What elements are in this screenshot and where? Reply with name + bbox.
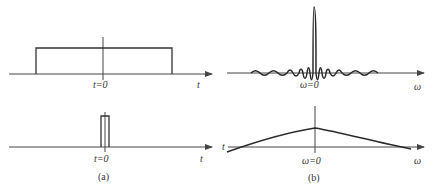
fourier-duality-diagram: t=0 t ω=0 ω t=0 t (a) t ω=0 ω (b) bbox=[0, 0, 434, 192]
caption-b: (b) bbox=[308, 172, 320, 184]
axis-label-t: t bbox=[200, 153, 203, 164]
axis-label-omega: ω bbox=[414, 81, 421, 92]
wide-spectrum bbox=[227, 128, 411, 152]
axis-label-t: t bbox=[197, 79, 200, 90]
origin-label: ω=0 bbox=[302, 155, 321, 166]
origin-label: ω=0 bbox=[300, 79, 319, 90]
left-edge-label: t bbox=[222, 141, 225, 152]
axis-label-omega: ω bbox=[414, 155, 421, 166]
wide-rect-pulse bbox=[36, 48, 172, 74]
caption-a: (a) bbox=[98, 171, 109, 183]
panel-a-top: t=0 t bbox=[9, 37, 212, 90]
origin-label: t=0 bbox=[93, 79, 108, 90]
sinc-spectrum bbox=[251, 7, 378, 80]
origin-label: t=0 bbox=[94, 153, 109, 164]
panel-a-bottom: t=0 t (a) bbox=[9, 112, 212, 183]
panel-b-top: ω=0 ω bbox=[227, 7, 424, 92]
panel-b-bottom: t ω=0 ω (b) bbox=[222, 106, 424, 184]
